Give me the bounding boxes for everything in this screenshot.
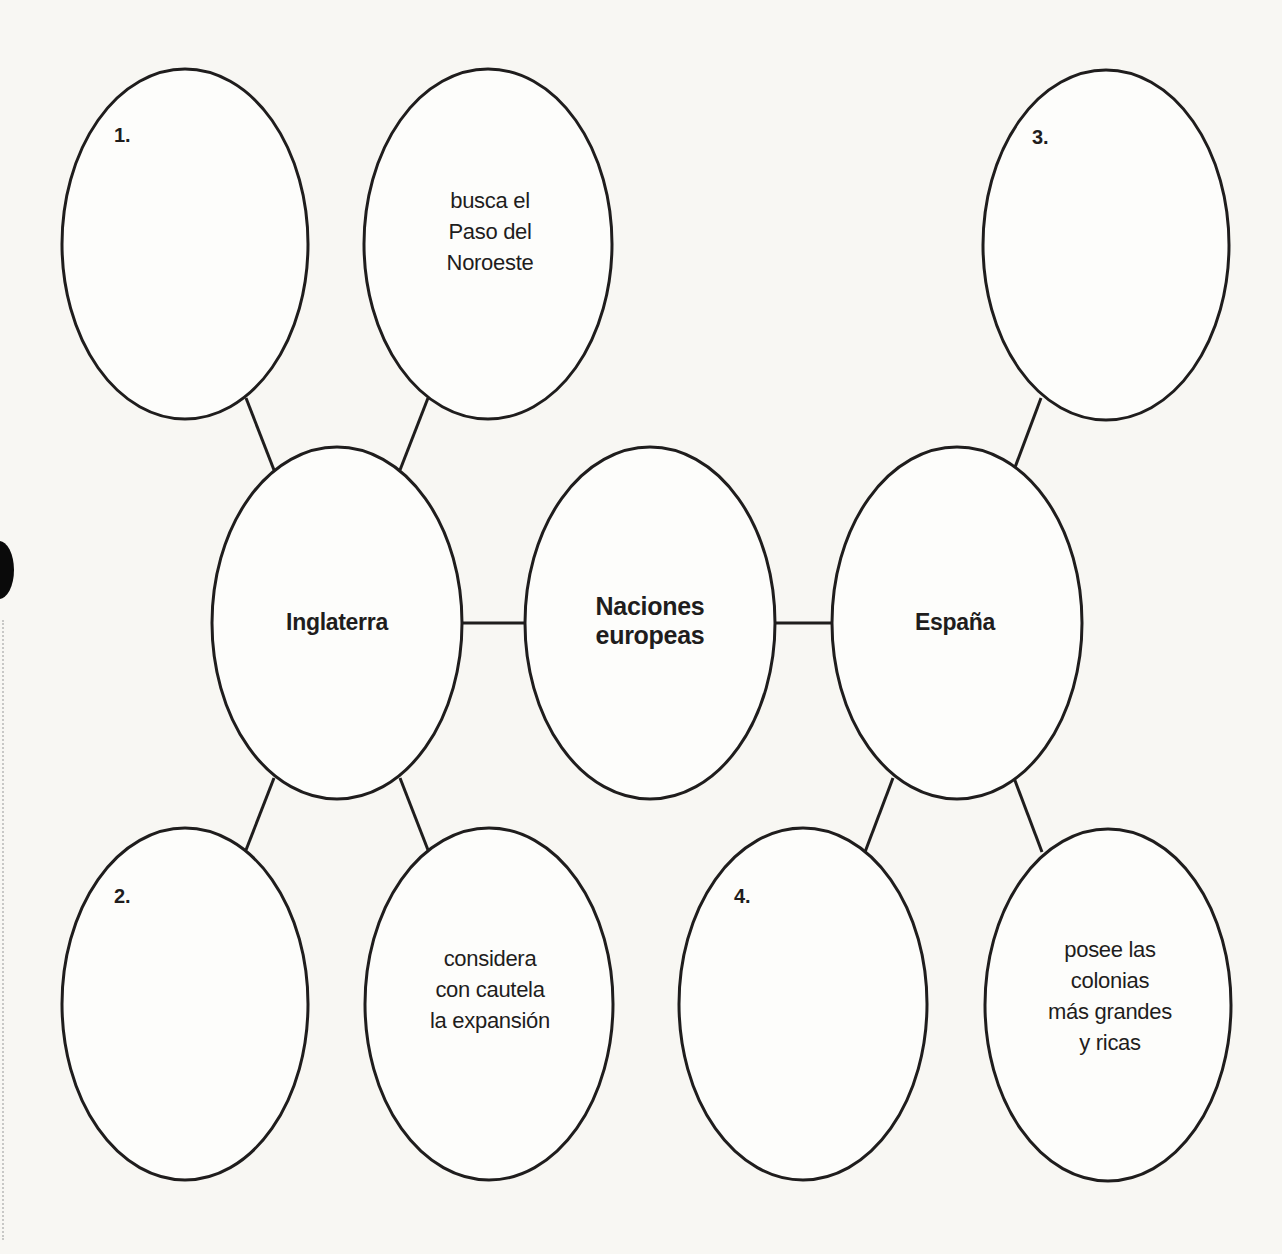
fact-paso-noroeste: busca el Paso del Noroeste xyxy=(447,185,534,278)
fact-line: y ricas xyxy=(1048,1027,1172,1058)
spain-label: España xyxy=(915,607,995,637)
blank-number-4: 4. xyxy=(734,885,751,908)
fact-line: con cautela xyxy=(430,974,550,1005)
fact-line: colonias xyxy=(1048,965,1172,996)
connector-spain-fact-bottom xyxy=(1014,778,1042,852)
england-label: Inglaterra xyxy=(286,607,388,637)
fact-line: Noroeste xyxy=(447,247,534,278)
fact-line: posee las xyxy=(1048,934,1172,965)
ellipse-blank-4[interactable] xyxy=(679,828,927,1180)
connector-spain-4 xyxy=(865,778,893,852)
connector-spain-3 xyxy=(1014,398,1041,470)
connector-england-2 xyxy=(246,778,274,850)
ellipse-blank-1[interactable] xyxy=(62,69,308,419)
connector-england-fact-top xyxy=(400,398,428,470)
fact-line: considera xyxy=(430,943,550,974)
fact-line: Paso del xyxy=(447,216,534,247)
fact-cautela: considera con cautela la expansión xyxy=(430,943,550,1036)
ellipse-blank-2[interactable] xyxy=(62,828,308,1180)
fact-line: más grandes xyxy=(1048,996,1172,1027)
connector-england-1 xyxy=(246,398,274,470)
center-title-line: europeas xyxy=(596,621,705,650)
fact-colonias: posee las colonias más grandes y ricas xyxy=(1048,934,1172,1058)
blank-number-3: 3. xyxy=(1032,126,1049,149)
ellipse-blank-3[interactable] xyxy=(983,70,1229,420)
connector-england-fact-bottom xyxy=(400,778,428,850)
fact-line: busca el xyxy=(447,185,534,216)
center-title: Naciones europeas xyxy=(596,592,705,650)
blank-number-1: 1. xyxy=(114,124,131,147)
center-title-line: Naciones xyxy=(596,592,705,621)
blank-number-2: 2. xyxy=(114,885,131,908)
fact-line: la expansión xyxy=(430,1005,550,1036)
